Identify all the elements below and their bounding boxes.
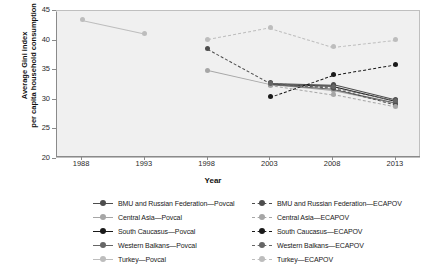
legend-swatch-icon bbox=[93, 255, 113, 264]
y-axis-title-line1: Average Gini index bbox=[20, 32, 29, 100]
legend-swatch-icon bbox=[252, 255, 272, 264]
data-point bbox=[268, 25, 273, 30]
x-tick-label: 1993 bbox=[129, 160, 159, 168]
x-tick-label: 1988 bbox=[66, 160, 96, 168]
y-tick-label: 20 bbox=[32, 154, 50, 162]
legend-item[interactable]: Turkey—ECAPOV bbox=[252, 252, 402, 266]
series-line-segment bbox=[207, 49, 270, 84]
legend-swatch-icon bbox=[252, 213, 272, 222]
data-point bbox=[331, 84, 336, 89]
legend-swatch-icon bbox=[93, 241, 113, 250]
legend-item[interactable]: Central Asia—Povcal bbox=[93, 210, 235, 224]
legend-item[interactable]: South Caucasus—ECAPOV bbox=[252, 224, 402, 238]
legend-column-povcal: BMU and Russian Federation—PovcalCentral… bbox=[93, 196, 235, 266]
legend-item-label: Central Asia—ECAPOV bbox=[277, 214, 349, 221]
legend-item[interactable]: BMU and Russian Federation—Povcal bbox=[93, 196, 235, 210]
series-line-segment bbox=[333, 64, 396, 76]
data-point bbox=[205, 68, 210, 73]
legend-swatch-icon bbox=[93, 213, 113, 222]
data-point bbox=[331, 72, 336, 77]
data-point bbox=[331, 44, 336, 49]
y-tick bbox=[52, 99, 56, 100]
series-line-segment bbox=[333, 87, 396, 102]
data-point bbox=[393, 104, 398, 109]
legend-item-label: Central Asia—Povcal bbox=[118, 214, 182, 221]
legend-swatch-icon bbox=[93, 227, 113, 236]
legend-item-label: BMU and Russian Federation—Povcal bbox=[118, 200, 235, 207]
legend-item[interactable]: BMU and Russian Federation—ECAPOV bbox=[252, 196, 402, 210]
legend-swatch-icon bbox=[252, 241, 272, 250]
data-point bbox=[268, 81, 273, 86]
y-axis-title: Average Gini index per capita household … bbox=[20, 0, 39, 145]
y-tick bbox=[52, 10, 56, 11]
x-axis-line bbox=[56, 156, 420, 157]
legend-swatch-icon bbox=[252, 227, 272, 236]
legend-item[interactable]: Western Balkans—ECAPOV bbox=[252, 238, 402, 252]
y-tick bbox=[52, 69, 56, 70]
y-tick bbox=[52, 128, 56, 129]
x-axis-title: Year bbox=[0, 176, 426, 185]
plot-area bbox=[56, 10, 420, 158]
legend-item-label: Turkey—ECAPOV bbox=[277, 256, 333, 263]
legend-swatch-icon bbox=[252, 199, 272, 208]
legend-item[interactable]: Turkey—Povcal bbox=[93, 252, 235, 266]
x-tick-label: 2008 bbox=[317, 160, 347, 168]
data-point bbox=[268, 94, 273, 99]
data-point bbox=[331, 92, 336, 97]
legend-item-label: Turkey—Povcal bbox=[118, 256, 166, 263]
data-point bbox=[205, 37, 210, 42]
legend: BMU and Russian Federation—PovcalCentral… bbox=[0, 196, 426, 276]
series-line-segment bbox=[270, 28, 333, 48]
plot-canvas bbox=[57, 11, 419, 157]
x-tick-label: 2013 bbox=[380, 160, 410, 168]
legend-item-label: South Caucasus—Povcal bbox=[118, 228, 195, 235]
legend-item-label: Western Balkans—Povcal bbox=[118, 242, 197, 249]
y-tick bbox=[52, 158, 56, 159]
legend-swatch-icon bbox=[93, 199, 113, 208]
data-point bbox=[393, 37, 398, 42]
y-tick bbox=[52, 40, 56, 41]
legend-item[interactable]: Western Balkans—Povcal bbox=[93, 238, 235, 252]
chart-page: 202530354045 198819931998200320082013 Av… bbox=[0, 0, 426, 279]
x-tick-label: 2003 bbox=[254, 160, 284, 168]
y-axis-title-line2: per capita household consumption bbox=[29, 3, 38, 128]
legend-item-label: BMU and Russian Federation—ECAPOV bbox=[277, 200, 402, 207]
series-line-segment bbox=[82, 20, 145, 35]
legend-column-ecapov: BMU and Russian Federation—ECAPOVCentral… bbox=[252, 196, 402, 266]
series-line-segment bbox=[208, 28, 271, 41]
series-line-segment bbox=[333, 39, 396, 47]
legend-item-label: Western Balkans—ECAPOV bbox=[277, 242, 364, 249]
legend-item-label: South Caucasus—ECAPOV bbox=[277, 228, 362, 235]
y-axis-line bbox=[56, 12, 57, 156]
x-tick-label: 1998 bbox=[192, 160, 222, 168]
legend-item[interactable]: Central Asia—ECAPOV bbox=[252, 210, 402, 224]
data-point bbox=[142, 31, 147, 36]
legend-item[interactable]: South Caucasus—Povcal bbox=[93, 224, 235, 238]
data-point bbox=[393, 62, 398, 67]
